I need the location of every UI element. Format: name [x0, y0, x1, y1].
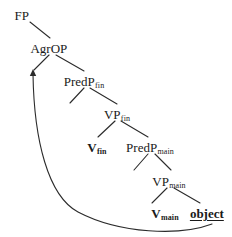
node-predp-fin-label: PredP [64, 74, 95, 89]
node-vp-fin-subscript: fin [121, 114, 130, 123]
node-v-main: Vmain [151, 205, 178, 222]
node-v-fin-label: V [87, 140, 96, 155]
node-vp-main-label: VP [152, 174, 169, 189]
branch-predp-fin-to-vp-fin [70, 88, 84, 103]
branch-predp-fin-to-vp-fin-right [90, 88, 117, 104]
branch-predp-main-to-vp-main [155, 154, 171, 170]
node-predp-main-label: PredP [126, 140, 157, 155]
movement-arrow-curve [33, 74, 212, 231]
node-v-main-label: V [151, 206, 160, 221]
node-predp-fin-subscript: fin [95, 81, 104, 90]
node-object: object [190, 205, 224, 222]
node-fp-label: FP [15, 8, 29, 23]
branch-vp-main-to-object [174, 188, 200, 203]
node-vp-fin: VPfin [104, 106, 130, 123]
node-object-label: object [190, 206, 224, 221]
node-predp-main: PredPmain [126, 139, 174, 156]
node-v-fin: Vfin [87, 139, 106, 156]
movement-arrow-group [30, 69, 212, 231]
node-fp: FP [15, 7, 30, 24]
node-predp-fin: PredPfin [64, 73, 105, 90]
branch-vp-main-to-v-main [152, 188, 167, 203]
node-predp-main-subscript: main [157, 147, 174, 156]
syntactic-tree-diagram: FP AgrOP PredPfin VPfin Vfin PredPmain V… [0, 0, 232, 237]
branch-agrop-to-predp-fin [56, 55, 84, 71]
node-vp-main: VPmain [152, 173, 185, 190]
branch-vp-fin-to-predp-main [121, 121, 148, 137]
node-v-fin-subscript: fin [97, 147, 107, 156]
node-vp-main-subscript: main [169, 181, 186, 190]
branch-fp-to-agrop [30, 22, 50, 38]
branch-vp-fin-to-v-fin [98, 121, 115, 137]
branch-predp-main-to-left [134, 154, 148, 170]
node-agrop: AgrOP [30, 40, 67, 57]
node-agrop-label: AgrOP [30, 41, 67, 56]
movement-arrowhead-icon [30, 69, 36, 76]
node-v-main-subscript: main [161, 213, 179, 222]
branch-agrop-to-spec [34, 55, 49, 70]
node-vp-fin-label: VP [104, 107, 121, 122]
